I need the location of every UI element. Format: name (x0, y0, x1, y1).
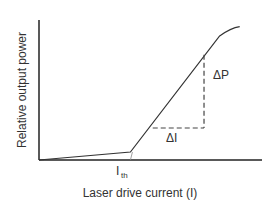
delta-i-label: ΔI (166, 131, 177, 145)
threshold-subscript: th (121, 171, 128, 180)
threshold-label: I (116, 164, 119, 178)
diagram: ΔP ΔI I th Laser drive current (I) Relat… (0, 0, 274, 208)
delta-p-label: ΔP (213, 68, 229, 82)
y-axis-label: Relative output power (15, 32, 29, 148)
x-axis-label: Laser drive current (I) (83, 186, 198, 200)
threshold-extrapolation-line (130, 152, 132, 160)
power-curve (39, 27, 240, 160)
diagram-svg: ΔP ΔI I th Laser drive current (I) Relat… (0, 0, 274, 208)
